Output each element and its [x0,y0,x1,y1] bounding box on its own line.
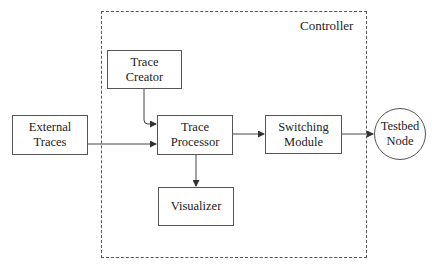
external-traces-box: External Traces [12,115,88,155]
switching-module-box: Switching Module [265,115,342,154]
testbed-node-circle: Testbed Node [374,108,426,160]
trace-processor-box: Trace Processor [157,115,233,155]
trace-creator-box: Trace Creator [107,50,182,89]
edge-creator-to-processor [144,89,156,124]
visualizer-box: Visualizer [158,187,234,226]
